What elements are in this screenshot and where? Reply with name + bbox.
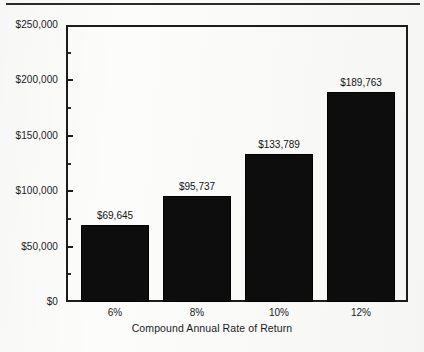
x-axis-title: Compound Annual Rate of Return (0, 322, 424, 334)
x-tick-label-8-percent: 8% (190, 308, 204, 318)
bar-10-percent[interactable] (245, 154, 313, 302)
chart-page: $250,000 $200,000 $150,000 $100,000 $50,… (0, 0, 424, 352)
x-tick-label-10-percent: 10% (269, 308, 289, 318)
bar-8-percent[interactable] (163, 196, 231, 302)
bar-12-percent[interactable] (327, 92, 395, 302)
y-tick-label-150000: $150,000 (15, 131, 58, 141)
y-tick-label-50000: $50,000 (21, 242, 58, 252)
y-tick-label-0: $0 (47, 297, 58, 307)
bar-value-label-12-percent: $189,763 (340, 78, 382, 88)
x-tick-label-6-percent: 6% (108, 308, 122, 318)
bar-value-label-10-percent: $133,789 (258, 140, 300, 150)
bar-value-label-6-percent: $69,645 (97, 211, 133, 221)
x-tick-label-12-percent: 12% (351, 308, 371, 318)
y-tick-label-100000: $100,000 (15, 186, 58, 196)
bar-value-label-8-percent: $95,737 (179, 182, 215, 192)
y-tick-label-250000: $250,000 (15, 20, 58, 30)
header-rule (6, 3, 420, 5)
bar-6-percent[interactable] (81, 225, 149, 302)
y-tick-label-200000: $200,000 (15, 75, 58, 85)
